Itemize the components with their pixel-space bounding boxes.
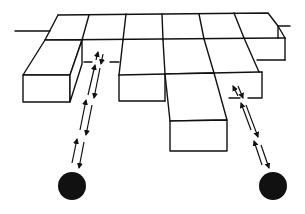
right-source-ball	[259, 172, 287, 200]
horizon-lines	[15, 26, 290, 31]
stepped-surface-diagram	[0, 0, 305, 214]
left-source-ball	[58, 172, 86, 200]
block-surface	[23, 13, 285, 151]
